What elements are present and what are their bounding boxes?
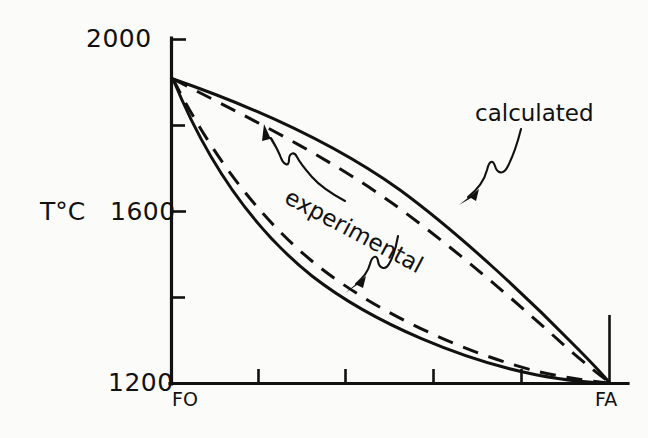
annotation-calculated: calculated (459, 100, 594, 205)
x-axis-right-endmember-label: FA (595, 388, 617, 410)
y-axis-title: T°C (39, 197, 85, 226)
experimental-label: experimental (281, 183, 428, 278)
annotation-experimental: experimental (262, 124, 428, 293)
calculated-leader-line (468, 129, 521, 197)
experimental-arrow-head-upper (262, 124, 275, 148)
calculated-arrow-head (459, 189, 479, 205)
y-axis-mid-label: 1600 (110, 197, 176, 226)
calculated-label: calculated (475, 100, 594, 126)
phase-diagram-figure: calculated experimental 2000 T°C 1600 12… (0, 0, 648, 438)
y-axis-bottom-label: 1200 (108, 368, 174, 397)
x-axis-left-endmember-label: FO (172, 388, 198, 410)
chart-svg: calculated experimental 2000 T°C 1600 12… (0, 0, 648, 438)
y-axis-top-label: 2000 (86, 24, 152, 53)
